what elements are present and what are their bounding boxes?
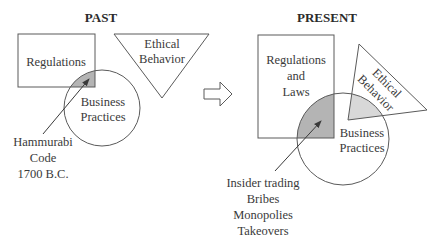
svg-text:Practices: Practices [80,110,125,124]
svg-text:Regulations: Regulations [266,53,326,67]
past-annotation: Hammurabi Code 1700 B.C. [13,135,73,181]
past-regulations-box: Regulations [18,34,140,146]
present-business-circle: Business Practices [297,93,389,185]
present-title: PRESENT [297,10,357,25]
svg-text:Laws: Laws [282,85,309,99]
diagram: PAST Regulations Business Practices Ethi… [0,0,437,239]
present-annotation: Insider trading Bribes Monopolies Takeov… [226,176,300,238]
svg-text:Practices: Practices [339,141,384,155]
svg-text:Hammurabi: Hammurabi [13,135,73,149]
svg-text:Insider trading: Insider trading [226,176,300,190]
svg-text:Business: Business [340,126,385,140]
past-regulations-label: Regulations [26,55,86,69]
past-title: PAST [85,10,118,25]
past-ethical-triangle: Ethical Behavior [114,34,209,98]
svg-text:Takeovers: Takeovers [237,224,288,238]
svg-text:Bribes: Bribes [247,192,280,206]
svg-text:1700 B.C.: 1700 B.C. [17,167,68,181]
svg-text:Monopolies: Monopolies [233,208,293,222]
svg-text:Code: Code [30,151,57,165]
svg-text:Business: Business [81,95,126,109]
right-arrow-icon [204,82,232,106]
svg-text:Behavior: Behavior [139,52,186,66]
svg-text:Ethical: Ethical [144,37,180,51]
past-business-circle: Business Practices [64,70,140,146]
svg-text:and: and [287,69,306,83]
